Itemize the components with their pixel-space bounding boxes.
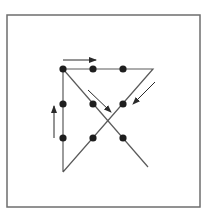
dot	[59, 134, 66, 141]
dot	[119, 100, 126, 107]
dot	[59, 100, 66, 107]
dot	[89, 65, 96, 72]
nine-dot-diagram	[0, 0, 211, 215]
dot	[89, 134, 96, 141]
dot	[59, 65, 66, 72]
dot	[119, 134, 126, 141]
solution-lines	[63, 69, 153, 172]
direction-arrows	[54, 60, 155, 138]
dot	[119, 65, 126, 72]
arrow-down-left-icon	[133, 82, 155, 104]
dot	[89, 100, 96, 107]
diagram-frame	[7, 15, 200, 207]
diagonal-line	[63, 69, 148, 167]
